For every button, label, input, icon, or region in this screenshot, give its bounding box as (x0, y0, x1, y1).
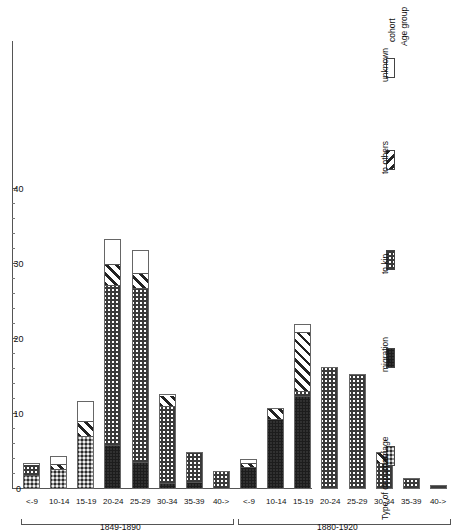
category-tick-label: 15-19 (76, 498, 96, 506)
bar-segment-migration (105, 446, 120, 488)
bar-segment-to-others (78, 422, 93, 437)
bar-segment-to-kin (24, 465, 39, 476)
value-axis-minor-tick (12, 308, 15, 309)
bar-segment-to-others (133, 274, 148, 290)
legend-label-to-kin: to kin (381, 254, 390, 274)
category-tick-label: 10-14 (266, 498, 286, 506)
bar-segment-to-kin (350, 375, 365, 488)
value-axis-minor-tick (12, 353, 15, 354)
value-axis-label: 20 (8, 335, 30, 344)
value-axis-minor-tick (12, 293, 15, 294)
bar-segment-unknown (133, 251, 148, 274)
bar-segment-to-others (51, 465, 66, 470)
bar-segment-to-kin (133, 289, 148, 463)
bar-segment-to-kin (431, 486, 446, 488)
category-tick-label: 20-24 (103, 498, 123, 506)
category-tick-label: 15-19 (293, 498, 313, 506)
bar-segment-marriage (51, 470, 66, 488)
legend: unknownto othersto kinmigrationmarriageT… (368, 0, 410, 527)
bar-segment-to-others (241, 464, 256, 469)
category-tick-label: 40-> (428, 498, 448, 506)
category-tick-label: 35-39 (184, 498, 204, 506)
legend-label-to-others: to others (381, 141, 390, 174)
bar-segment-to-kin (322, 368, 337, 488)
bar-segment-to-others (268, 409, 283, 420)
bar-1880-1920-15-19 (294, 324, 311, 489)
value-axis-label: 10 (8, 410, 30, 419)
legend-label-unknown: unknown (381, 48, 390, 82)
bar-1880-1920-40-> (430, 485, 447, 489)
value-axis-minor-tick (12, 218, 15, 219)
value-axis-minor-tick (12, 473, 15, 474)
category-tick-label: 25-29 (130, 498, 150, 506)
bar-segment-to-kin (187, 453, 202, 483)
value-axis-minor-tick (12, 458, 15, 459)
bar-segment-migration (133, 463, 148, 488)
bar-segment-to-kin (160, 407, 175, 483)
bar-1880-1920-20-24 (321, 367, 338, 489)
bar-segment-marriage (24, 476, 39, 488)
category-tick-label: 25-29 (347, 498, 367, 506)
bar-segment-to-kin (295, 392, 310, 396)
cohort-bracket-label: 1880-1920 (317, 523, 358, 532)
age-group-axis-title: Age group (400, 7, 409, 46)
bar-1849-1890-10-14 (50, 456, 67, 489)
bar-segment-unknown (78, 402, 93, 422)
value-axis-minor-tick (12, 278, 15, 279)
category-tick-label: 30-34 (157, 498, 177, 506)
bar-segment-to-kin (105, 286, 120, 446)
legend-title: Type of departure (381, 453, 390, 520)
bar-segment-migration (241, 468, 256, 488)
bar-1849-1890-40-> (213, 471, 230, 489)
bar-segment-unknown (241, 460, 256, 464)
legend-label-migration: migration (381, 337, 390, 372)
bar-segment-marriage (78, 437, 93, 488)
bar-1849-1890-15-19 (77, 401, 94, 489)
category-tick-label: 40-> (211, 498, 231, 506)
value-axis-minor-tick (12, 443, 15, 444)
value-axis-minor-tick (12, 203, 15, 204)
category-tick-label: 10-14 (49, 498, 69, 506)
bar-segment-migration (295, 397, 310, 488)
bar-segment-unknown (105, 240, 120, 265)
value-axis-minor-tick (12, 323, 15, 324)
bar-segment-migration (187, 483, 202, 488)
bar-segment-to-others (295, 333, 310, 392)
bar-1880-1920-10-14 (267, 408, 284, 489)
bar-segment-unknown (51, 457, 66, 465)
bar-segment-to-others (160, 396, 175, 408)
bar-segment-to-others (105, 265, 120, 286)
category-tick-label: <-9 (239, 498, 259, 506)
value-axis-minor-tick (12, 368, 15, 369)
category-tick-label: <-9 (22, 498, 42, 506)
value-axis-minor-tick (12, 398, 15, 399)
bar-1880-1920-<-9 (240, 459, 257, 489)
cohort-axis-title: cohort (388, 18, 397, 42)
bar-1849-1890-20-24 (104, 239, 121, 489)
value-axis-label: 30 (8, 260, 30, 269)
value-axis-minor-tick (12, 428, 15, 429)
bar-segment-migration (268, 420, 283, 488)
bar-segment-migration (160, 484, 175, 488)
cohort-bracket-label: 1849-1890 (100, 523, 141, 532)
bar-1880-1920-25-29 (349, 374, 366, 489)
value-axis-minor-tick (12, 383, 15, 384)
category-tick-label: 20-24 (320, 498, 340, 506)
bar-1849-1890-30-34 (159, 395, 176, 490)
bar-1849-1890-35-39 (186, 452, 203, 489)
bar-segment-to-kin (214, 472, 229, 488)
value-axis-label: 40 (8, 185, 30, 194)
bar-segment-unknown (295, 325, 310, 333)
value-axis-minor-tick (12, 233, 15, 234)
value-axis-minor-tick (12, 248, 15, 249)
bar-1849-1890-25-29 (132, 250, 149, 489)
bar-1849-1890-<-9 (23, 464, 40, 490)
